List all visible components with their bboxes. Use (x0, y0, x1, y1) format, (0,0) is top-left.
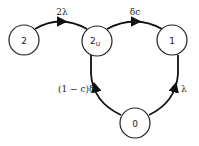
node-2-label: 2 (21, 36, 27, 46)
arrow-2u-to-0-icon (95, 87, 96, 91)
edge-0-to-1 (149, 55, 178, 115)
node-0: 0 (120, 108, 150, 138)
arrow-0-to-1-icon (174, 87, 175, 91)
edge-label-2lambda: 2λ (56, 7, 68, 17)
node-0-label: 0 (132, 119, 138, 129)
edge-2u-to-1 (107, 22, 162, 30)
edge-label-1-minus-c-delta: (1 − c)δ (58, 84, 94, 94)
edge-2u-to-0 (91, 55, 121, 115)
node-1-label: 1 (169, 36, 175, 46)
node-2u: 2U (82, 26, 112, 56)
state-diagram: 2 2U 1 0 2λ δc (1 − c)δ λ (0, 0, 199, 146)
node-1: 1 (157, 25, 187, 55)
edge-label-delta-c: δc (130, 7, 140, 17)
edge-label-lambda: λ (181, 84, 187, 94)
node-2: 2 (9, 25, 39, 55)
edge-2-to-2u (35, 22, 87, 30)
